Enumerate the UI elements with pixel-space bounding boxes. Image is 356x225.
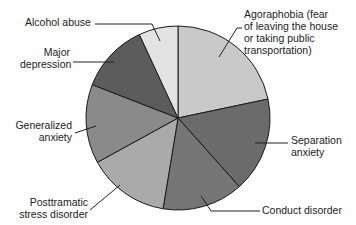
label-major-depression: Major depression: [20, 46, 70, 70]
label-ptsd: Posttramatic stress disorder: [8, 196, 88, 220]
label-generalized-anxiety: Generalized anxiety: [8, 119, 72, 143]
pie-slices: [86, 26, 270, 210]
leader-ptsd: [90, 185, 120, 210]
label-alcohol-abuse: Alcohol abuse: [25, 16, 91, 28]
label-separation-anxiety: Separation anxiety: [291, 134, 342, 158]
label-agoraphobia: Agoraphobia (fear of leaving the house o…: [244, 8, 338, 56]
label-conduct-disorder: Conduct disorder: [262, 204, 342, 216]
